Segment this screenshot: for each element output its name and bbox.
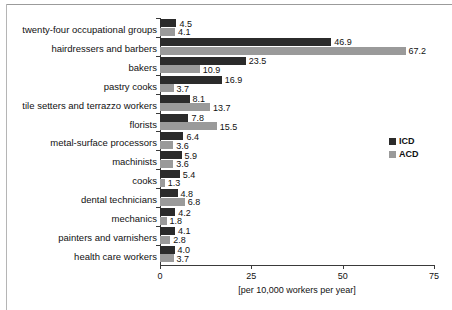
bar-value-label: 16.9 xyxy=(225,76,243,85)
x-axis-title: [per 10,000 workers per year] xyxy=(160,285,434,295)
x-tick-50 xyxy=(343,265,344,269)
chart-legend: ICD ACD xyxy=(389,137,419,163)
bar-value-label: 10.9 xyxy=(203,66,221,75)
bar-value-label: 13.7 xyxy=(213,104,231,113)
category-label: bakers xyxy=(128,63,157,73)
bar-acd xyxy=(160,28,175,36)
category-label: florists xyxy=(130,120,157,130)
bar-value-label: 1.3 xyxy=(168,179,181,188)
bar-value-label: 23.5 xyxy=(249,57,267,66)
x-axis-line xyxy=(160,265,434,266)
bar-acd xyxy=(160,236,170,244)
legend-swatch-acd xyxy=(389,151,396,158)
x-tick-label-0: 0 xyxy=(157,271,162,281)
category-label: mechanics xyxy=(112,214,157,224)
legend-label-acd: ACD xyxy=(399,150,419,159)
category-label: painters and varnishers xyxy=(58,233,157,243)
bar-acd xyxy=(160,254,174,262)
bar-acd xyxy=(160,217,167,225)
x-tick-label-50: 50 xyxy=(338,271,348,281)
bar-acd xyxy=(160,160,173,168)
legend-label-icd: ICD xyxy=(399,137,415,146)
bar-icd xyxy=(160,189,178,197)
category-label: health care workers xyxy=(74,252,157,262)
bar-value-label: 3.6 xyxy=(176,160,189,169)
bar-icd xyxy=(160,19,176,27)
bar-icd xyxy=(160,132,183,140)
legend-swatch-icd xyxy=(389,138,396,145)
bar-acd xyxy=(160,122,217,130)
bar-icd xyxy=(160,227,175,235)
bar-icd xyxy=(160,95,190,103)
category-label: metal-surface processors xyxy=(50,138,157,148)
bar-acd xyxy=(160,65,200,73)
category-label: dental technicians xyxy=(81,195,157,205)
category-label: machinists xyxy=(112,157,157,167)
bar-icd xyxy=(160,246,175,254)
category-label: cooks xyxy=(132,176,157,186)
bar-acd xyxy=(160,103,210,111)
bar-acd xyxy=(160,179,165,187)
bar-value-label: 3.6 xyxy=(176,142,189,151)
bar-value-label: 15.5 xyxy=(220,123,238,132)
bar-value-label: 3.7 xyxy=(177,85,190,94)
x-tick-25 xyxy=(251,265,252,269)
x-tick-label-25: 25 xyxy=(246,271,256,281)
bar-value-label: 3.7 xyxy=(177,255,190,264)
category-label: twenty-four occupational groups xyxy=(22,25,157,35)
bar-value-label: 4.1 xyxy=(178,28,191,37)
bar-icd xyxy=(160,57,246,65)
bar-acd xyxy=(160,198,185,206)
x-tick-0 xyxy=(160,265,161,269)
category-label: hairdressers and barbers xyxy=(51,44,157,54)
bar-acd xyxy=(160,47,406,55)
bar-acd xyxy=(160,141,173,149)
legend-item-acd: ACD xyxy=(389,150,419,159)
bar-value-label: 67.2 xyxy=(409,47,427,56)
bar-acd xyxy=(160,84,174,92)
category-label: tile setters and terrazzo workers xyxy=(22,101,157,111)
x-tick-label-75: 75 xyxy=(429,271,439,281)
bar-icd xyxy=(160,151,182,159)
category-label: pastry cooks xyxy=(104,82,157,92)
bar-icd xyxy=(160,76,222,84)
bar-icd xyxy=(160,170,180,178)
bar-icd xyxy=(160,38,331,46)
bar-value-label: 2.8 xyxy=(173,236,186,245)
chart-root: 0255075 twenty-four occupational groupsh… xyxy=(0,0,452,310)
legend-item-icd: ICD xyxy=(389,137,419,146)
bar-value-label: 6.8 xyxy=(188,198,201,207)
x-tick-75 xyxy=(434,265,435,269)
bar-value-label: 1.8 xyxy=(170,217,183,226)
bar-chart-plot-area: 0255075 twenty-four occupational groupsh… xyxy=(0,0,452,310)
bar-icd xyxy=(160,208,175,216)
bar-value-label: 5.4 xyxy=(183,171,196,180)
bar-icd xyxy=(160,114,188,122)
